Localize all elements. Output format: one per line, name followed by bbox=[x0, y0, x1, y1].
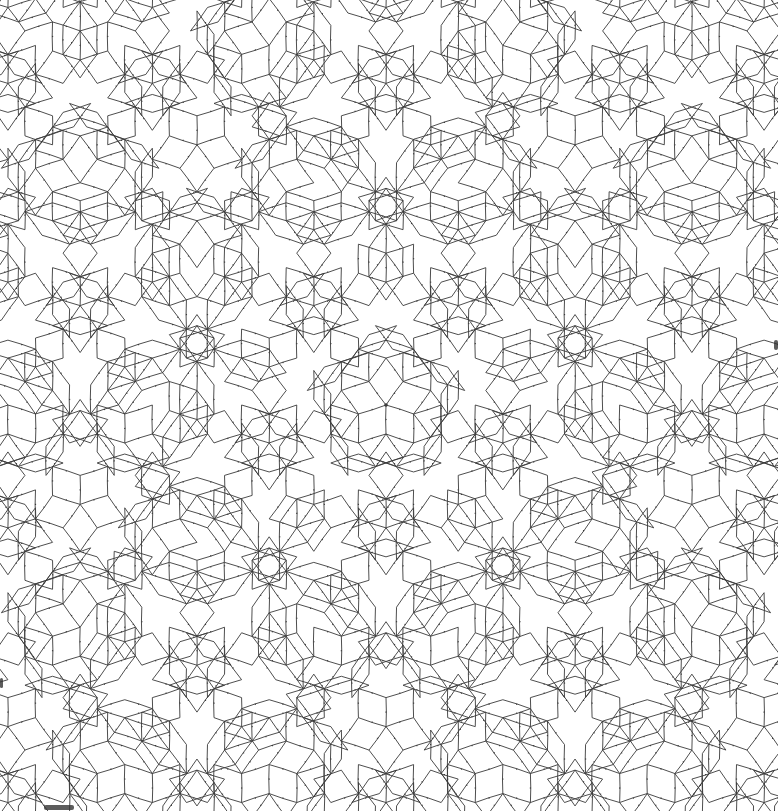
edge-artifact-bottom-left bbox=[44, 805, 74, 810]
edge-artifact-left bbox=[0, 678, 3, 688]
edge-artifact-right bbox=[774, 340, 778, 350]
rhombic-tiling-artwork bbox=[0, 0, 778, 811]
